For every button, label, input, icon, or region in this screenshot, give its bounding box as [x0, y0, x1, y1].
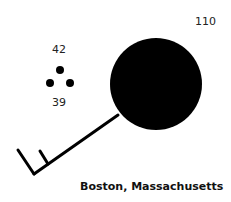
location-label: Boston, Massachusetts [80, 180, 223, 193]
station-model-graphic [0, 0, 231, 202]
rain-symbol-icon [46, 66, 74, 87]
sky-cover-circle-icon [110, 38, 202, 130]
dew-point-value: 39 [52, 97, 66, 108]
temperature-value: 42 [52, 44, 66, 55]
station-model-diagram: 110 42 39 Boston, Massachusetts [0, 0, 231, 202]
wind-barb-icon [18, 115, 118, 174]
pressure-value: 110 [195, 16, 216, 27]
